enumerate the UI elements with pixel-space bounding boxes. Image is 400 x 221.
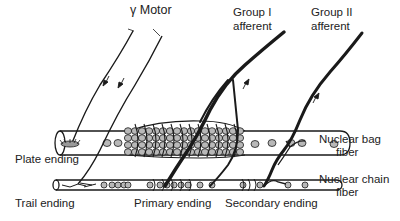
group-ii-label-line1: Group II	[311, 6, 353, 19]
nucleus	[138, 142, 145, 149]
nucleus	[185, 182, 191, 188]
nucleus	[166, 142, 173, 149]
nucleus	[268, 140, 276, 147]
gamma-motor-axons	[72, 29, 162, 184]
nucleus	[178, 182, 184, 188]
plate-ending-label: Plate ending	[15, 153, 79, 166]
plate-ending	[60, 139, 80, 147]
spiral-turn	[248, 179, 250, 191]
nucleus	[180, 135, 187, 142]
chain-fiber-nuclei	[101, 182, 308, 188]
gamma-motor-axon-trail	[78, 36, 162, 184]
group-i-arrow-icon	[243, 79, 249, 89]
trail-ending-label: Trail ending	[15, 197, 75, 210]
nuclear-chain-label-line1: Nuclear chain	[319, 173, 389, 186]
nucleus	[138, 135, 145, 142]
nucleus	[114, 140, 122, 147]
nucleus	[124, 135, 131, 142]
nucleus	[257, 182, 263, 188]
nucleus	[197, 182, 203, 188]
spiral-turn	[254, 179, 256, 191]
nucleus	[138, 128, 145, 135]
nucleus	[124, 149, 131, 156]
primary-ending-label: Primary ending	[134, 197, 211, 210]
nucleus	[173, 149, 180, 156]
nucleus	[124, 128, 131, 135]
nucleus	[157, 182, 163, 188]
gamma-arrow-icons	[103, 76, 124, 88]
nucleus	[159, 142, 166, 149]
nucleus	[236, 149, 243, 156]
nucleus	[125, 182, 131, 188]
gamma-motor-axon-plate	[72, 31, 133, 143]
nucleus	[229, 135, 236, 142]
group-i-afferent	[165, 32, 284, 186]
nuclear-bag-label-line1: Nuclear bag	[319, 133, 381, 146]
secondary-ending-label: Secondary ending	[225, 197, 318, 210]
nucleus	[147, 182, 153, 188]
nucleus	[285, 182, 291, 188]
nucleus	[109, 182, 115, 188]
nucleus	[101, 182, 107, 188]
nucleus	[251, 141, 259, 148]
gamma-motor-label: γ Motor	[130, 4, 172, 17]
nucleus	[115, 182, 121, 188]
nucleus	[171, 182, 177, 188]
group-i-label-line2: afferent	[233, 20, 272, 33]
nucleus	[222, 142, 229, 149]
nucleus	[166, 135, 173, 142]
nucleus	[201, 135, 208, 142]
nuclear-chain-label-line2: fiber	[336, 186, 358, 199]
nucleus	[302, 182, 308, 188]
nucleus	[201, 142, 208, 149]
nucleus	[180, 142, 187, 149]
nuclear-bag-label-line2: fiber	[336, 146, 358, 159]
group-i-label-line1: Group I	[233, 6, 271, 19]
nucleus	[240, 182, 246, 188]
nucleus	[124, 142, 131, 149]
nucleus	[173, 128, 180, 135]
group-ii-label-line2: afferent	[311, 20, 350, 33]
